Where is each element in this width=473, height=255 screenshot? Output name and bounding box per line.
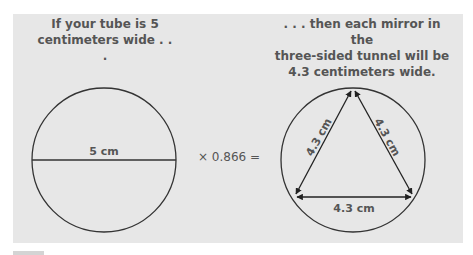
side-label-bottom: 4.3 cm: [333, 202, 374, 215]
side-label-right: 4.3 cm: [371, 116, 402, 158]
left-circle: 5 cm: [32, 88, 176, 232]
diameter-label: 5 cm: [89, 145, 118, 158]
footer-bar: [13, 251, 44, 255]
right-circle: 4.3 cm 4.3 cm 4.3 cm: [281, 88, 425, 232]
diagram-graphics: 5 cm 4.3 cm 4.3 cm 4.3 cm: [0, 0, 473, 255]
